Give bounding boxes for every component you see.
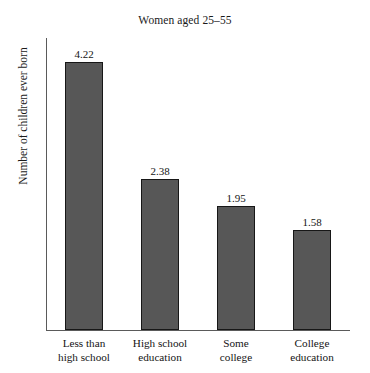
- bar-high-school-education[interactable]: [141, 179, 179, 330]
- bar-value-label-2: 1.95: [226, 192, 245, 204]
- bar-value-label-3: 1.58: [302, 216, 321, 228]
- bar-group-3: 1.58: [274, 38, 350, 330]
- plot-area: 4.22 2.38 1.95 1.58: [46, 38, 350, 330]
- bar-group-1: 2.38: [122, 38, 198, 330]
- y-axis-label: Number of children ever born: [17, 47, 29, 184]
- x-axis-tick-labels: Less than high school High school educat…: [46, 336, 350, 372]
- bar-chart-figure: Women aged 25–55 Number of children ever…: [0, 0, 370, 373]
- bar-college-education[interactable]: [293, 230, 331, 330]
- bar-less-than-high-school[interactable]: [65, 62, 103, 330]
- x-tick-label-3-line-1: College: [267, 336, 357, 350]
- bar-group-0: 4.22: [46, 38, 122, 330]
- bar-value-label-0: 4.22: [74, 48, 93, 60]
- chart-title: Women aged 25–55: [0, 14, 370, 26]
- bar-group-2: 1.95: [198, 38, 274, 330]
- x-tick-label-3: College education: [267, 336, 357, 364]
- bar-value-label-1: 2.38: [150, 165, 169, 177]
- y-axis-label-container: Number of children ever born: [13, 31, 33, 201]
- x-tick-label-3-line-2: education: [267, 350, 357, 364]
- x-axis-line: [46, 330, 350, 331]
- bar-some-college[interactable]: [217, 206, 255, 330]
